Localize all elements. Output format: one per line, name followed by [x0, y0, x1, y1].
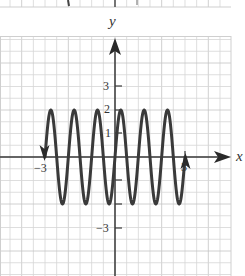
x-axis-label: x — [236, 149, 243, 164]
y-tick-label-pos3: 3 — [103, 80, 109, 92]
y-tick-label-pos1: 1 — [105, 127, 111, 139]
x-tick-label-neg3: −3 — [34, 162, 47, 174]
y-tick-label-neg3: −3 — [96, 222, 109, 234]
sine-graph — [0, 0, 245, 276]
y-axis-label: y — [109, 14, 116, 29]
y-tick-label-pos2: 2 — [104, 103, 110, 115]
previous-graph-fragment — [0, 0, 231, 7]
x-tick-label-pos3: 3 — [181, 161, 187, 173]
